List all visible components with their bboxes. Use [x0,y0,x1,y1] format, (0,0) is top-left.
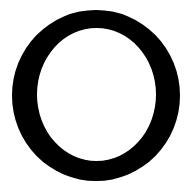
letter-o-glyph: O [0,0,191,188]
letter-o-outline [12,10,180,181]
glyph-canvas: O [0,0,191,188]
